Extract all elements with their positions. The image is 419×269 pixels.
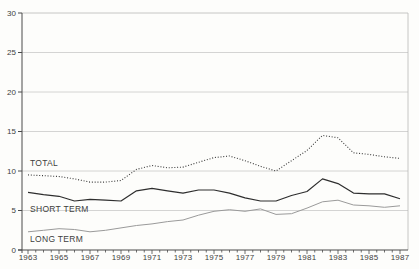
y-tick-label: 20 <box>7 88 16 97</box>
y-tick-label: 5 <box>12 206 17 215</box>
x-tick-label: 1963 <box>19 253 38 262</box>
x-tick-label: 1979 <box>267 253 286 262</box>
x-tick-label: 1969 <box>112 253 131 262</box>
x-tick-label: 1981 <box>298 253 317 262</box>
y-tick-label: 0 <box>12 246 17 255</box>
series-line-total <box>28 135 400 182</box>
plot-canvas: 0510152025301963196519671969197119731975… <box>0 0 419 269</box>
series-label-short-term: SHORT TERM <box>30 204 89 214</box>
series-label-long-term: LONG TERM <box>30 234 83 244</box>
y-tick-label: 15 <box>7 127 16 136</box>
y-tick-label: 30 <box>7 9 16 18</box>
x-tick-label: 1977 <box>236 253 255 262</box>
x-tick-label: 1983 <box>329 253 348 262</box>
x-tick-label: 1965 <box>50 253 69 262</box>
x-tick-label: 1973 <box>174 253 193 262</box>
series-label-total: TOTAL <box>30 158 58 168</box>
x-tick-label: 1971 <box>143 253 162 262</box>
series-line-short-term <box>28 179 400 201</box>
x-tick-label: 1967 <box>81 253 100 262</box>
x-tick-label: 1987 <box>391 253 410 262</box>
y-tick-label: 10 <box>7 167 16 176</box>
x-tick-label: 1985 <box>360 253 379 262</box>
line-chart-figure: 0510152025301963196519671969197119731975… <box>0 0 419 269</box>
x-tick-label: 1975 <box>205 253 224 262</box>
y-tick-label: 25 <box>7 48 16 57</box>
